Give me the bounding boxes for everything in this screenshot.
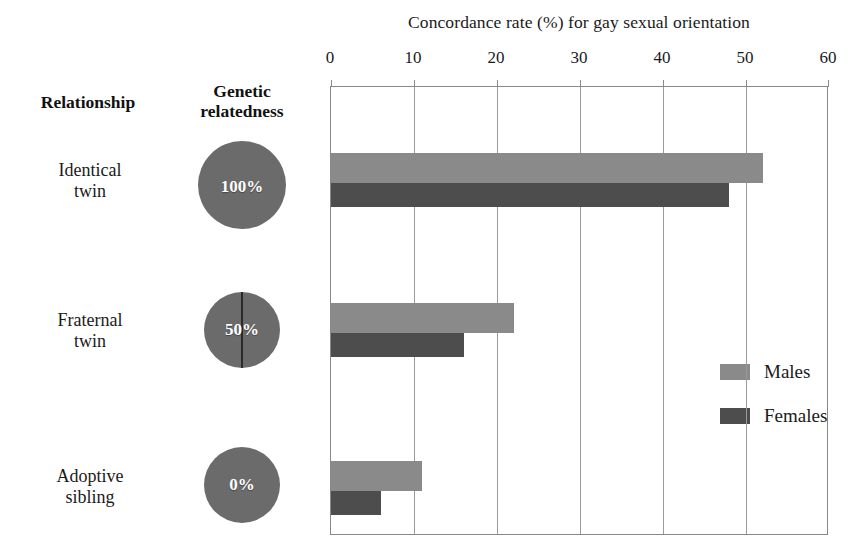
relatedness-circle-0: 0%: [204, 447, 280, 523]
legend-label-females: Females: [764, 405, 827, 427]
column-header-relationship: Relationship: [8, 93, 168, 113]
row-label-line-2: sibling: [10, 487, 170, 508]
chart-title: Concordance rate (%) for gay sexual orie…: [330, 12, 828, 33]
column-header-relatedness-line-1: Genetic: [172, 82, 312, 102]
legend-label-males: Males: [764, 361, 810, 383]
bar-identical-twin-males: [331, 153, 763, 183]
relatedness-circle-50: 50%: [204, 292, 280, 368]
x-tick-mark-20: [497, 80, 498, 87]
relatedness-percent-label: 0%: [204, 475, 280, 495]
x-tick-label-10: 10: [405, 48, 422, 68]
x-tick-label-60: 60: [820, 48, 837, 68]
row-label-line-1: Identical: [10, 160, 170, 181]
row-label-line-2: twin: [10, 181, 170, 202]
x-tick-mark-40: [663, 80, 664, 87]
bar-adoptive-sibling-females: [331, 491, 381, 515]
legend-item-females: Females: [720, 394, 827, 438]
row-label-line-2: twin: [10, 331, 170, 352]
plot-area: MalesFemales: [330, 86, 828, 535]
bar-fraternal-twin-males: [331, 303, 514, 333]
row-label-identical-twin: Identicaltwin: [10, 160, 170, 202]
row-label-adoptive-sibling: Adoptivesibling: [10, 466, 170, 508]
x-tick-label-40: 40: [654, 48, 671, 68]
relatedness-circle-100: 100%: [198, 141, 286, 229]
row-label-line-1: Adoptive: [10, 466, 170, 487]
concordance-rate-figure: Concordance rate (%) for gay sexual orie…: [0, 0, 851, 557]
row-label-line-1: Fraternal: [10, 310, 170, 331]
legend-item-males: Males: [720, 350, 827, 394]
relatedness-percent-label: 100%: [198, 177, 286, 197]
x-tick-mark-50: [746, 80, 747, 87]
bar-fraternal-twin-females: [331, 333, 464, 357]
x-tick-label-30: 30: [571, 48, 588, 68]
x-tick-mark-10: [414, 80, 415, 87]
x-tick-mark-60: [828, 80, 829, 87]
bar-identical-twin-females: [331, 183, 729, 207]
column-header-genetic-relatedness: Geneticrelatedness: [172, 82, 312, 122]
x-tick-label-0: 0: [326, 48, 335, 68]
x-tick-mark-0: [331, 80, 332, 87]
row-label-fraternal-twin: Fraternaltwin: [10, 310, 170, 352]
bar-adoptive-sibling-males: [331, 461, 422, 491]
relatedness-percent-label: 50%: [204, 320, 280, 340]
x-tick-label-20: 20: [488, 48, 505, 68]
x-tick-mark-30: [580, 80, 581, 87]
chart-legend: MalesFemales: [720, 350, 827, 438]
x-tick-label-50: 50: [737, 48, 754, 68]
column-header-relatedness-line-2: relatedness: [172, 102, 312, 122]
x-axis-tick-labels: 0102030405060: [330, 48, 828, 74]
